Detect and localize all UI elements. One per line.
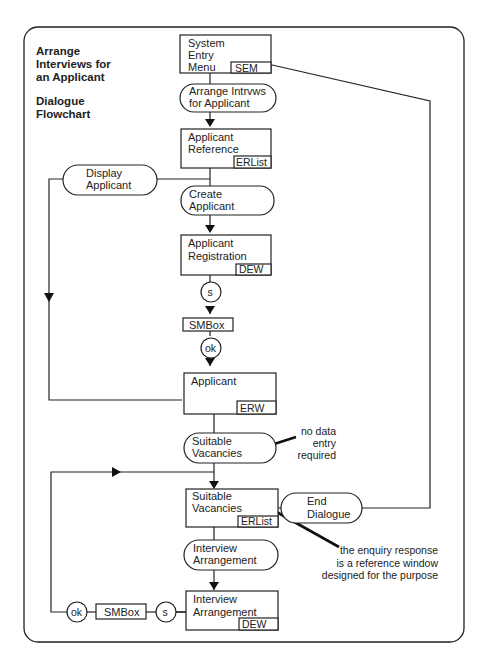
- action-label: Interview: [193, 542, 237, 554]
- arrow-down-icon: [209, 582, 219, 590]
- action-label: Dialogue: [307, 508, 350, 520]
- window-label: SMBox: [104, 606, 140, 618]
- dialogue-flowchart: Arrange Interviews for an Applicant Dial…: [0, 0, 489, 667]
- window-suitable-vacancies[interactable]: Suitable Vacancies ERList: [186, 489, 278, 527]
- window-label: System: [188, 37, 225, 49]
- window-applicant[interactable]: Applicant ERW: [184, 373, 276, 414]
- window-label: Applicant: [188, 237, 233, 249]
- window-applicant-reference[interactable]: Applicant Reference ERList: [181, 129, 271, 168]
- diagram-title: Arrange Interviews for an Applicant Dial…: [36, 45, 111, 120]
- action-suitable-vacancies[interactable]: Suitable Vacancies: [184, 433, 276, 463]
- svg-text:entry: entry: [313, 437, 337, 449]
- action-label: Applicant: [189, 200, 234, 212]
- arrow-down-icon: [205, 119, 215, 127]
- connector-s-2: s: [156, 602, 176, 622]
- connector-ok-1: ok: [201, 338, 221, 358]
- window-interview-arrangement[interactable]: Interview Arrangement DEW: [186, 591, 278, 630]
- window-type-label: SEM: [235, 62, 258, 74]
- action-label: Applicant: [86, 179, 131, 191]
- arrow-down-icon: [205, 306, 215, 314]
- window-label: Registration: [188, 250, 247, 262]
- svg-text:ok: ok: [205, 342, 217, 354]
- subtitle-line-2: Flowchart: [36, 108, 90, 120]
- title-line-3: an Applicant: [36, 71, 105, 83]
- action-display-applicant[interactable]: Display Applicant: [63, 165, 157, 195]
- window-type-label: ERList: [236, 156, 267, 168]
- subtitle-line-1: Dialogue: [36, 95, 85, 107]
- note-enquiry-response: the enquiry response is a reference wind…: [322, 544, 439, 581]
- action-label: Suitable: [192, 435, 232, 447]
- window-label: Entry: [188, 49, 214, 61]
- window-system-entry-menu[interactable]: System Entry Menu SEM: [180, 35, 271, 74]
- window-label: Reference: [188, 143, 239, 155]
- window-type-label: ERList: [241, 515, 272, 527]
- svg-text:no data: no data: [301, 425, 336, 437]
- action-create-applicant[interactable]: Create Applicant: [181, 186, 274, 215]
- window-type-label: ERW: [240, 402, 264, 414]
- action-label: Display: [86, 167, 123, 179]
- window-type-label: DEW: [242, 618, 267, 630]
- action-label: Vacancies: [192, 447, 242, 459]
- connector-s-1: s: [201, 282, 221, 302]
- action-label: Arrange Intrvws: [189, 85, 267, 97]
- arrow-down-icon: [44, 293, 54, 302]
- window-label: Arrangement: [193, 606, 257, 618]
- action-label: for Applicant: [189, 97, 250, 109]
- svg-text:designed for the purpose: designed for the purpose: [322, 569, 438, 581]
- window-label: Vacancies: [192, 502, 242, 514]
- window-applicant-registration[interactable]: Applicant Registration DEW: [181, 235, 271, 275]
- arrow-down-icon: [205, 225, 215, 233]
- action-arrange-intrvws[interactable]: Arrange Intrvws for Applicant: [180, 84, 276, 112]
- window-smbox-2[interactable]: SMBox: [96, 604, 146, 619]
- window-type-label: DEW: [239, 263, 264, 275]
- arrow-down-icon: [205, 358, 215, 366]
- arrow-right-icon: [112, 467, 121, 477]
- action-interview-arrangement[interactable]: Interview Arrangement: [184, 540, 278, 570]
- action-label: Arrangement: [193, 554, 257, 566]
- window-label: Menu: [188, 61, 216, 73]
- title-line-2: Interviews for: [36, 58, 111, 70]
- arrow-down-icon: [209, 481, 219, 489]
- connector-line: [49, 179, 182, 400]
- action-label: End: [307, 495, 327, 507]
- window-smbox-1[interactable]: SMBox: [183, 318, 233, 331]
- svg-text:s: s: [163, 606, 168, 618]
- svg-text:s: s: [208, 286, 213, 298]
- title-line-1: Arrange: [36, 45, 80, 57]
- window-label: Suitable: [192, 490, 232, 502]
- window-label: Applicant: [188, 131, 233, 143]
- svg-text:ok: ok: [71, 606, 83, 618]
- svg-text:is a reference window: is a reference window: [336, 557, 438, 569]
- window-label: SMBox: [189, 319, 225, 331]
- connector-ok-2: ok: [67, 602, 87, 622]
- action-label: Create: [189, 188, 222, 200]
- window-label: Applicant: [191, 375, 236, 387]
- note-no-data-entry: no data entry required: [297, 425, 336, 461]
- action-end-dialogue[interactable]: End Dialogue: [281, 493, 362, 523]
- window-label: Interview: [193, 593, 237, 605]
- svg-text:the enquiry response: the enquiry response: [340, 544, 438, 556]
- svg-text:required: required: [297, 449, 336, 461]
